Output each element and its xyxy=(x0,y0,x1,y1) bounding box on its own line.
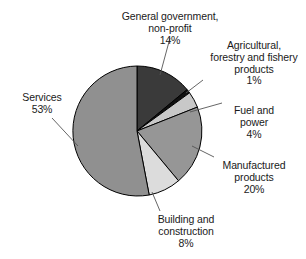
slice-label-line: non-profit xyxy=(112,23,228,35)
slice-label-building-and-construction: Building and construction 8% xyxy=(140,214,232,249)
slice-label-value: 8% xyxy=(140,238,232,250)
slice-label-agricultural: Agricultural, forestry and fishery produ… xyxy=(205,40,303,87)
slice-label-value: 20% xyxy=(208,184,300,196)
slice-label-value: 1% xyxy=(205,75,303,87)
slice-label-line: forestry and fishery xyxy=(205,52,303,64)
slice-label-services: Services 53% xyxy=(8,92,76,116)
leader-line-building-and-construction xyxy=(152,192,160,211)
slice-label-fuel-and-power: Fuel and power 4% xyxy=(216,105,292,140)
slice-label-manufactured-products: Manufactured products 20% xyxy=(208,160,300,195)
slice-label-line: products xyxy=(208,172,300,184)
pie-chart-figure: General government, non-profit 14% Agric… xyxy=(0,0,306,259)
leader-line-agricultural xyxy=(186,80,203,93)
pie-slices xyxy=(73,66,202,196)
slice-label-value: 4% xyxy=(216,129,292,141)
slice-label-line: construction xyxy=(140,226,232,238)
slice-label-value: 53% xyxy=(8,104,76,116)
slice-label-line: power xyxy=(216,117,292,129)
